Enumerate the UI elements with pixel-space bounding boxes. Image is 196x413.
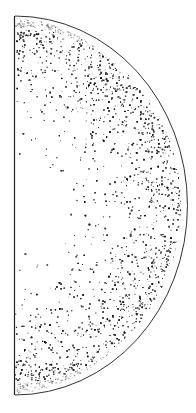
stipple-texture	[15, 27, 181, 384]
half-disc-figure	[0, 0, 196, 413]
stippled-half-disc	[0, 0, 196, 413]
